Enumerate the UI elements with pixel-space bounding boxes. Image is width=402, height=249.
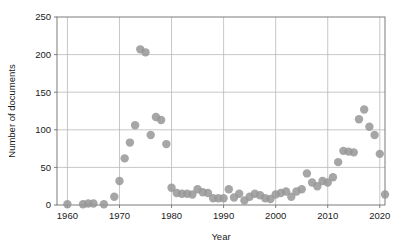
y-tick-label: 200	[35, 49, 51, 60]
data-points	[63, 45, 389, 208]
data-point	[329, 173, 337, 181]
y-tick-labels: 050100150200250	[35, 11, 51, 210]
data-point	[298, 185, 306, 193]
data-point	[219, 194, 227, 202]
data-point	[63, 200, 71, 208]
data-point	[350, 148, 358, 156]
y-tick-label: 0	[46, 199, 51, 210]
data-point	[381, 190, 389, 198]
x-tick-label: 2010	[317, 210, 338, 221]
x-tick-label: 2020	[369, 210, 390, 221]
x-tick-labels: 1960197019801990200020102020	[57, 210, 391, 221]
x-tick-label: 1960	[57, 210, 78, 221]
data-point	[334, 158, 342, 166]
x-tick-label: 1980	[161, 210, 182, 221]
data-point	[235, 190, 243, 198]
data-point	[225, 185, 233, 193]
y-tick-label: 150	[35, 87, 51, 98]
x-tick-label: 2000	[265, 210, 286, 221]
data-point	[370, 131, 378, 139]
data-point	[162, 140, 170, 148]
y-tick-label: 100	[35, 124, 51, 135]
data-point	[141, 48, 149, 56]
data-point	[100, 200, 108, 208]
data-point	[115, 177, 123, 185]
data-point	[126, 138, 134, 146]
chart-canvas: 050100150200250 196019701980199020002010…	[0, 0, 402, 249]
data-point	[376, 150, 384, 158]
data-point	[120, 154, 128, 162]
data-point	[131, 121, 139, 129]
data-point	[89, 199, 97, 207]
data-point	[355, 115, 363, 123]
x-tick-label: 1970	[109, 210, 130, 221]
y-tick-label: 250	[35, 11, 51, 22]
data-point	[157, 116, 165, 124]
data-point	[365, 123, 373, 131]
data-point	[360, 105, 368, 113]
x-tick-label: 1990	[213, 210, 234, 221]
y-axis-title: Number of documents	[6, 64, 17, 158]
data-point	[110, 193, 118, 201]
y-tick-label: 50	[40, 162, 51, 173]
data-point	[147, 131, 155, 139]
x-axis-title: Year	[211, 231, 230, 242]
scatter-chart-figure: 050100150200250 196019701980199020002010…	[0, 0, 402, 249]
data-point	[303, 169, 311, 177]
